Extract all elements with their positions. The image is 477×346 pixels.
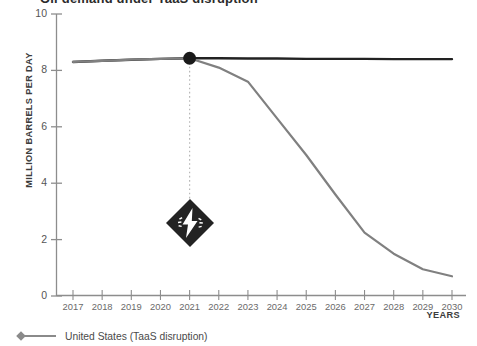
y-tick-label: 8 — [21, 63, 47, 75]
series-lines — [73, 58, 452, 276]
lightning-bolt-badge — [165, 198, 215, 248]
y-tick-label: 4 — [21, 176, 47, 188]
plot-area — [0, 0, 477, 346]
legend-item-label: United States (TaaS disruption) — [65, 331, 208, 342]
x-tick-label: 2030 — [435, 301, 469, 312]
y-tick-label: 6 — [21, 120, 47, 132]
series-line — [73, 58, 452, 276]
chart-container: Oil demand under TaaS disruption MILLION… — [0, 0, 477, 346]
axis-lines — [57, 14, 467, 296]
annotation-layer — [183, 52, 196, 202]
disruption-point-marker — [183, 52, 196, 65]
y-tick-label: 2 — [21, 233, 47, 245]
legend-marker-diamond — [14, 329, 58, 343]
lightning-bolt-icon — [165, 198, 215, 248]
y-tick-label: 10 — [21, 7, 47, 19]
y-tick-label: 0 — [21, 289, 47, 301]
chart-legend: United States (TaaS disruption) — [14, 329, 208, 343]
